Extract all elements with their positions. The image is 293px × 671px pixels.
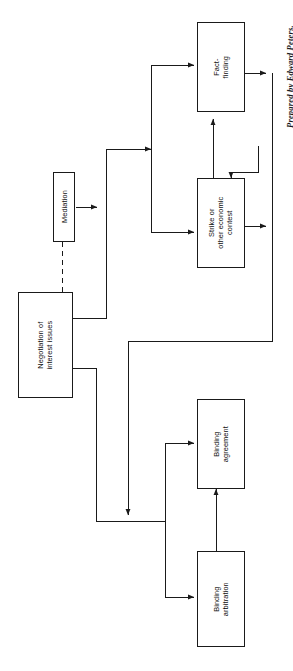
node-binding-agreement[interactable]: Binding agreement (197, 399, 245, 489)
node-binding-arbitration[interactable]: Binding arbitration (197, 551, 245, 647)
node-negotiation-label: Negotiation of interest issues (36, 321, 54, 370)
edge-junction-to-binding (128, 443, 194, 597)
credit-line: Prepared by Edward Peters. (285, 25, 293, 128)
node-fact-finding-label: Fact- finding (212, 56, 230, 78)
edge-negotiation-branch-lower (73, 368, 128, 521)
node-mediation[interactable]: Mediation (53, 172, 75, 242)
node-fact-finding[interactable]: Fact- finding (197, 22, 245, 112)
node-strike-label: Strike or other economic contest (207, 197, 235, 249)
edge-fact-finding-to-strike (231, 146, 258, 178)
diagram-canvas: Negotiation of interest issues Mediation… (0, 0, 293, 671)
node-negotiation[interactable]: Negotiation of interest issues (18, 292, 73, 398)
edge-branch-to-fact-and-strike (151, 65, 194, 232)
node-binding-arbitration-label: Binding arbitration (212, 582, 230, 616)
node-strike[interactable]: Strike or other economic contest (197, 178, 245, 268)
node-binding-agreement-label: Binding agreement (212, 426, 230, 462)
node-mediation-label: Mediation (59, 191, 68, 224)
edge-negotiation-branch-upper (73, 149, 151, 318)
